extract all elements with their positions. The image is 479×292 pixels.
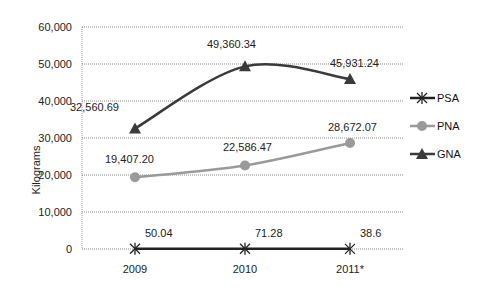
data-label: 22,586.47 <box>223 141 272 153</box>
y-axis-label: Kilograms <box>30 145 42 194</box>
x-axis-ticks: 200920102011* <box>123 263 365 275</box>
circle-marker <box>240 160 250 170</box>
legend-item-gna: GNA <box>410 148 462 160</box>
data-labels: 50.0471.2838.619,407.2022,586.4728,672.0… <box>70 38 381 238</box>
y-tick-label: 50,000 <box>38 58 72 70</box>
data-label: 71.28 <box>255 227 283 239</box>
data-label: 28,672.07 <box>328 121 377 133</box>
data-label: 32,560.69 <box>70 101 119 113</box>
triangle-marker <box>129 123 141 134</box>
legend-label: GNA <box>437 148 462 160</box>
data-label: 19,407.20 <box>105 153 154 165</box>
legend-item-psa: PSA <box>410 92 460 104</box>
y-tick-label: 10,000 <box>38 206 72 218</box>
circle-marker <box>417 121 427 131</box>
legend-label: PSA <box>437 92 460 104</box>
y-tick-label: 30,000 <box>38 132 72 144</box>
legend: PSAPNAGNA <box>410 92 462 160</box>
y-tick-label: 60,000 <box>38 21 72 33</box>
x-tick-label: 2009 <box>123 263 147 275</box>
y-tick-label: 40,000 <box>38 95 72 107</box>
data-label: 38.6 <box>360 227 381 239</box>
legend-item-pna: PNA <box>410 120 460 132</box>
series-gna-line <box>135 64 350 128</box>
x-tick-label: 2011* <box>336 263 365 275</box>
series-lines <box>129 60 356 254</box>
circle-marker <box>130 172 140 182</box>
data-label: 49,360.34 <box>207 38 256 50</box>
data-label: 50.04 <box>145 227 173 239</box>
x-tick-label: 2010 <box>233 263 257 275</box>
y-tick-label: 0 <box>66 243 72 255</box>
y-tick-label: 20,000 <box>38 169 72 181</box>
data-label: 45,931.24 <box>330 57 379 69</box>
circle-marker <box>345 138 355 148</box>
y-axis-ticks: 010,00020,00030,00040,00050,00060,000 <box>38 21 72 255</box>
legend-label: PNA <box>437 120 460 132</box>
line-chart: 010,00020,00030,00040,00050,00060,000 Ki… <box>0 0 479 292</box>
